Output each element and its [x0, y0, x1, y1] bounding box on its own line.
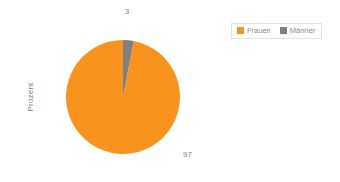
pie-plot-area: [66, 40, 180, 154]
legend-item-frauen[interactable]: Frauen: [237, 27, 271, 35]
chart-legend: Frauen Männer: [231, 23, 322, 39]
legend-item-maenner[interactable]: Männer: [280, 27, 315, 35]
pie-slice-frauen[interactable]: [66, 40, 180, 154]
data-label-maenner: 3: [125, 7, 129, 16]
pie-chart-figure: Prozent 3 97 Frauen Männer: [0, 0, 340, 182]
legend-label-maenner: Männer: [290, 27, 315, 35]
legend-swatch-frauen-icon: [237, 27, 244, 34]
legend-swatch-maenner-icon: [280, 27, 287, 34]
legend-label-frauen: Frauen: [247, 27, 271, 35]
pie-svg: [66, 40, 180, 154]
data-label-frauen: 97: [183, 150, 192, 159]
y-axis-label: Prozent: [26, 83, 35, 112]
